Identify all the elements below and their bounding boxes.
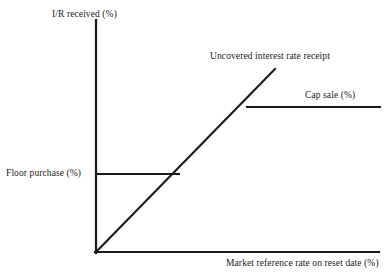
chart-canvas xyxy=(0,0,388,276)
x-axis-label: Market reference rate on reset date (%) xyxy=(226,257,379,269)
uncovered-rate-diagonal-line xyxy=(96,69,275,252)
chart-figure: I/R received (%) Market reference rate o… xyxy=(0,0,388,276)
uncovered-rate-label: Uncovered interest rate receipt xyxy=(210,50,330,62)
floor-purchase-label: Floor purchase (%) xyxy=(6,167,81,179)
cap-sale-label: Cap sale (%) xyxy=(305,89,355,101)
y-axis-label: I/R received (%) xyxy=(52,8,117,20)
